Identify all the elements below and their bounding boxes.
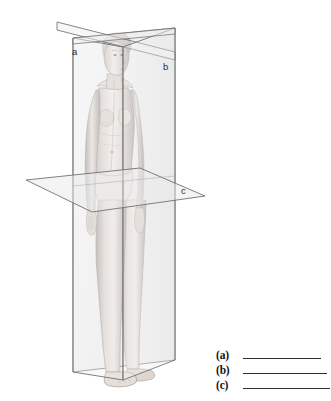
answer-label-c: (c) xyxy=(216,379,240,391)
answer-key: (a) (b) (c) xyxy=(216,346,330,391)
plane-label-b: b xyxy=(163,62,168,72)
answer-row-b: (b) xyxy=(216,361,330,376)
answer-row-c: (c) xyxy=(216,376,330,391)
plane-label-c: c xyxy=(181,186,186,196)
answer-row-a: (a) xyxy=(216,346,330,361)
answer-label-b: (b) xyxy=(216,364,240,376)
answer-blank-c[interactable] xyxy=(243,388,330,389)
transverse-plane xyxy=(26,168,205,212)
plane-label-a: a xyxy=(72,47,77,57)
answer-blank-a[interactable] xyxy=(243,358,321,359)
answer-blank-b[interactable] xyxy=(243,373,327,374)
answer-label-a: (a) xyxy=(216,349,240,361)
diagram-canvas: a b c xyxy=(0,0,331,401)
